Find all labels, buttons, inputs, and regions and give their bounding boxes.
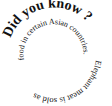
spiral-text-graphic: Did you know ? Elephant meat is sold as … — [0, 0, 112, 106]
spiral-svg: Did you know ? Elephant meat is sold as … — [0, 0, 112, 106]
inner-body-text: food in certain Asian countries. — [16, 17, 90, 61]
outer-body-text: Elephant meat is sold as — [31, 60, 104, 106]
